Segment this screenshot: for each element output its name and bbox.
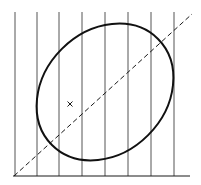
ellipse-diagram (0, 0, 201, 185)
cross-marker-icon (68, 102, 73, 107)
vertical-lines (15, 12, 174, 176)
dashed-diagonal-line (14, 14, 192, 176)
